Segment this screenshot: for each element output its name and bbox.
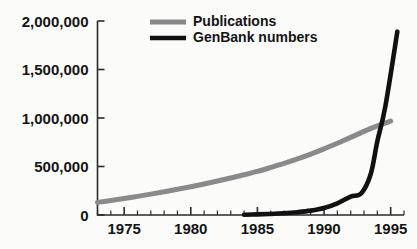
y-tick-label: 2,000,000 [22,13,89,30]
y-tick-label: 500,000 [34,158,88,175]
x-tick-label: 1980 [174,220,207,237]
chart-figure: 0500,0001,000,0001,500,0002,000,000 1975… [0,0,417,249]
x-tick-label: 1990 [307,220,340,237]
y-tick-label: 1,000,000 [22,110,89,127]
x-tick-label: 1985 [241,220,274,237]
line-chart: 0500,0001,000,0001,500,0002,000,000 1975… [0,0,417,249]
y-tick-label: 0 [80,207,88,224]
x-tick-label: 1975 [107,220,140,237]
y-tick-label: 1,500,000 [22,61,89,78]
legend-label-genbank-numbers: GenBank numbers [193,29,318,45]
x-tick-label: 1995 [374,220,407,237]
legend-label-publications: Publications [193,13,276,29]
